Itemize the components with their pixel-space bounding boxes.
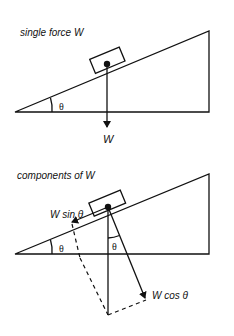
center-of-mass-dot [105,204,111,210]
perpendicular-component-arrow [108,207,145,298]
bottom-diagram-title: components of W [17,170,96,181]
dashed-line [80,258,108,315]
parallel-component-label: W sin θ [50,209,84,220]
bottom-diagram: components of W θ θ W sin θ W cos θ [15,170,209,315]
dashed-line [108,300,146,315]
vertical-angle-arc [108,236,120,239]
inclined-plane-diagrams: single force W θ W components of W [0,0,234,336]
incline-triangle [15,31,209,112]
top-diagram-title: single force W [20,27,85,38]
vertical-angle-label: θ [112,241,117,252]
top-diagram: single force W θ W [15,27,209,145]
angle-label: θ [59,101,64,112]
incline-angle-label: θ [59,243,64,254]
incline-angle-arc [51,240,53,254]
weight-label: W [103,133,115,145]
angle-arc [51,98,53,112]
perpendicular-component-label: W cos θ [152,290,189,301]
